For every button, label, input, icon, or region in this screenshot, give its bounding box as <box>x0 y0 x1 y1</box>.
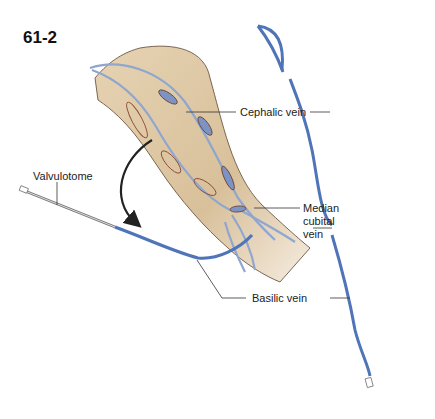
label-cephalic-vein: Cephalic vein <box>240 106 306 119</box>
label-median-line2: cubital <box>303 215 339 228</box>
label-median-line1: Median <box>303 202 339 215</box>
label-basilic-vein: Basilic vein <box>252 292 307 305</box>
label-median-line3: vein <box>303 228 339 241</box>
illustration <box>0 0 435 419</box>
vein-tip-cap <box>365 377 373 387</box>
harvested-cephalic-vein <box>258 26 370 376</box>
valvulotome <box>19 186 115 227</box>
label-valvulotome: Valvulotome <box>33 170 93 183</box>
label-median-cubital-vein: Median cubital vein <box>303 202 339 241</box>
rotation-arrow <box>121 140 152 222</box>
